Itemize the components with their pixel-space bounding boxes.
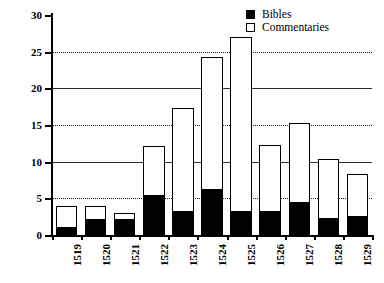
x-tick-mark-1519 xyxy=(81,235,83,240)
plot-area xyxy=(52,15,372,235)
y-tick-mark-10 xyxy=(45,162,52,164)
bar-segment-commentaries-1523 xyxy=(172,108,194,211)
y-tick-label-0: 0 xyxy=(2,230,42,241)
bar-segment-commentaries-1529 xyxy=(347,174,369,217)
x-tick-label-1527: 1527 xyxy=(304,244,315,266)
bar-segment-bibles-1526 xyxy=(259,212,281,235)
bar-segment-bibles-1529 xyxy=(347,217,369,235)
x-tick-mark-1522 xyxy=(168,235,170,240)
bar-segment-bibles-1525 xyxy=(230,212,252,235)
x-tick-label-1528: 1528 xyxy=(333,244,344,266)
bar-segment-bibles-1521 xyxy=(114,220,136,235)
x-tick-mark-1521 xyxy=(139,235,141,240)
legend-label-bibles: Bibles xyxy=(262,8,291,21)
bar-segment-bibles-1524 xyxy=(201,190,223,235)
legend-item-commentaries: Commentaries xyxy=(246,21,329,34)
bar-segment-bibles-1519 xyxy=(56,228,78,235)
bar-1521 xyxy=(114,15,136,235)
bar-1524 xyxy=(201,15,223,235)
x-axis-line xyxy=(51,235,373,237)
x-tick-label-1526: 1526 xyxy=(275,244,286,266)
x-tick-mark-1524 xyxy=(227,235,229,240)
y-tick-mark-25 xyxy=(45,52,52,54)
y-tick-label-15: 15 xyxy=(2,120,42,131)
x-tick-label-1520: 1520 xyxy=(101,244,112,266)
x-tick-label-1519: 1519 xyxy=(72,244,83,266)
bar-1529 xyxy=(347,15,369,235)
bar-1522 xyxy=(143,15,165,235)
x-tick-mark-1528 xyxy=(343,235,345,240)
x-tick-label-1523: 1523 xyxy=(188,244,199,266)
bar-segment-commentaries-1520 xyxy=(85,206,107,221)
bar-segment-commentaries-1526 xyxy=(259,145,281,212)
bar-1519 xyxy=(56,15,78,235)
y-tick-mark-15 xyxy=(45,125,52,127)
bar-1528 xyxy=(318,15,340,235)
x-tick-mark-1520 xyxy=(110,235,112,240)
hollow-square-icon xyxy=(246,23,255,32)
bar-segment-commentaries-1519 xyxy=(56,206,78,228)
y-tick-mark-5 xyxy=(45,198,52,200)
x-tick-label-1522: 1522 xyxy=(159,244,170,266)
y-tick-mark-20 xyxy=(45,88,52,90)
bar-segment-bibles-1528 xyxy=(318,219,340,235)
bar-chart: 051015202530 151915201521152215231524152… xyxy=(0,0,384,283)
bar-segment-bibles-1520 xyxy=(85,220,107,235)
bar-1525 xyxy=(230,15,252,235)
bar-1527 xyxy=(289,15,311,235)
y-tick-label-5: 5 xyxy=(2,193,42,204)
x-tick-label-1525: 1525 xyxy=(246,244,257,266)
x-tick-label-1524: 1524 xyxy=(217,244,228,266)
bar-segment-commentaries-1524 xyxy=(201,57,223,190)
bar-segment-bibles-1523 xyxy=(172,212,194,235)
x-tick-mark-1523 xyxy=(197,235,199,240)
y-tick-label-30: 30 xyxy=(2,10,42,21)
bar-segment-bibles-1527 xyxy=(289,203,311,235)
bar-1526 xyxy=(259,15,281,235)
bar-segment-commentaries-1522 xyxy=(143,146,165,197)
filled-square-icon xyxy=(246,10,255,19)
legend-label-commentaries: Commentaries xyxy=(262,21,329,34)
x-tick-mark-1525 xyxy=(256,235,258,240)
chart-legend: BiblesCommentaries xyxy=(246,8,329,34)
x-tick-label-1521: 1521 xyxy=(130,244,141,266)
legend-item-bibles: Bibles xyxy=(246,8,329,21)
x-tick-mark-1526 xyxy=(285,235,287,240)
y-tick-mark-30 xyxy=(45,15,52,17)
x-tick-mark-origin xyxy=(52,235,54,240)
y-tick-label-10: 10 xyxy=(2,157,42,168)
bar-segment-commentaries-1528 xyxy=(318,159,340,218)
bar-segment-commentaries-1521 xyxy=(114,213,136,220)
bar-1523 xyxy=(172,15,194,235)
bar-segment-bibles-1522 xyxy=(143,196,165,235)
x-tick-label-1529: 1529 xyxy=(362,244,373,266)
x-tick-mark-1527 xyxy=(314,235,316,240)
bar-1520 xyxy=(85,15,107,235)
y-tick-label-25: 25 xyxy=(2,47,42,58)
x-tick-mark-1529 xyxy=(372,235,374,240)
bar-segment-commentaries-1525 xyxy=(230,37,252,212)
y-tick-label-20: 20 xyxy=(2,83,42,94)
bar-segment-commentaries-1527 xyxy=(289,123,311,203)
